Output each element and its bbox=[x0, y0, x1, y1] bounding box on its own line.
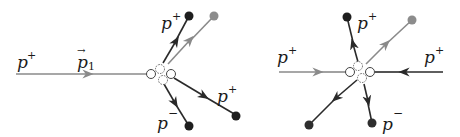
svg-text:p: p bbox=[161, 13, 172, 33]
svg-text:+: + bbox=[368, 10, 377, 23]
svg-text:1: 1 bbox=[88, 60, 95, 73]
detector-dot-dark bbox=[343, 13, 352, 22]
svg-text:p: p bbox=[357, 13, 368, 33]
momentum-label: p → 1 bbox=[77, 45, 95, 73]
svg-text:→: → bbox=[77, 45, 86, 56]
right-vertex bbox=[346, 62, 375, 83]
left-vertex bbox=[147, 65, 176, 85]
left-outgoing-down-label: p − bbox=[157, 106, 178, 133]
svg-text:p: p bbox=[157, 113, 168, 133]
detector-dot-gray bbox=[408, 16, 417, 25]
left-incoming-label: p + bbox=[17, 49, 36, 72]
svg-text:p: p bbox=[277, 47, 288, 67]
svg-text:−: − bbox=[168, 106, 178, 120]
svg-text:+: + bbox=[228, 83, 237, 96]
svg-text:p: p bbox=[424, 47, 435, 67]
svg-text:p: p bbox=[217, 86, 228, 106]
right-incoming-left-label: p + bbox=[277, 44, 297, 67]
svg-text:p: p bbox=[382, 114, 393, 134]
collision-diagrams: p + p → 1 p + p bbox=[0, 0, 460, 137]
right-outgoing-down-left-track bbox=[305, 80, 358, 130]
detector-dot-dark bbox=[185, 122, 194, 131]
right-outgoing-up-label: p + bbox=[357, 10, 377, 33]
left-outgoing-up-label: p + bbox=[161, 10, 181, 33]
left-diagram: p + p → 1 p + p bbox=[16, 10, 241, 133]
svg-text:+: + bbox=[172, 10, 181, 23]
right-diagram: p + p + p + bbox=[277, 10, 444, 134]
right-outgoing-antiproton-track bbox=[364, 84, 377, 128]
right-outgoing-proton-up-track bbox=[343, 13, 359, 63]
svg-text:+: + bbox=[27, 49, 36, 62]
left-outgoing-right-label: p + bbox=[217, 83, 237, 106]
right-outgoing-down-label: p − bbox=[382, 106, 403, 134]
detector-dot-gray bbox=[210, 12, 219, 21]
svg-text:−: − bbox=[393, 106, 403, 120]
svg-text:+: + bbox=[288, 44, 297, 57]
detector-dot-dark bbox=[232, 112, 241, 121]
right-incoming-right-label: p + bbox=[424, 44, 444, 67]
svg-text:+: + bbox=[435, 44, 444, 57]
detector-dot-dark bbox=[185, 12, 194, 21]
detector-dot-dark bbox=[305, 121, 314, 130]
detector-dot-dark bbox=[368, 119, 377, 128]
